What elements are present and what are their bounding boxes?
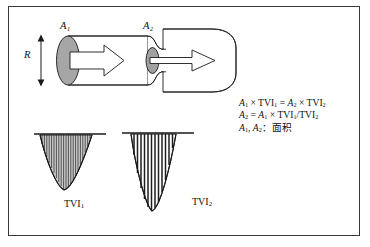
f2-times: ×: [270, 109, 275, 120]
f2-equals: =: [250, 109, 255, 120]
f3-colon: ：: [262, 122, 272, 133]
f1-times-2: ×: [299, 97, 304, 108]
label-tvi1-sub: 1: [81, 202, 84, 209]
f1-tvi2: TVI: [307, 97, 323, 108]
formula-line-2: A2 = A1 × TVI1/TVI2: [239, 109, 326, 121]
label-tvi2: TVI2: [192, 197, 212, 208]
f1-tvi1-sub: 1: [274, 101, 277, 108]
f2-a1-sub: 1: [264, 114, 267, 121]
f1-equals: =: [280, 97, 285, 108]
label-tvi2-text: TVI: [192, 196, 209, 207]
radius-dimension-arrow: [38, 35, 45, 87]
f2-tvi2: TVI: [299, 109, 315, 120]
label-tvi1: TVI1: [64, 199, 84, 210]
label-area-2: A₂: [143, 21, 153, 32]
formula-line-1: A1 × TVI1 = A2 × TVI2: [239, 97, 326, 109]
f3-comma: ,: [248, 122, 250, 133]
f1-tvi1: TVI: [258, 97, 274, 108]
f2-tvi2-sub: 2: [315, 114, 318, 121]
formula-block: A1 × TVI1 = A2 × TVI2 A2 = A1 × TVI1/TVI…: [239, 97, 326, 134]
f2-a2-sub: 2: [245, 114, 248, 121]
figure-root: A₁ A₂ R TVI1 TVI2 A1 × TVI1 = A2 × TVI2 …: [0, 0, 370, 247]
f1-a1-sub: 1: [245, 101, 248, 108]
waveform-tvi2: [122, 133, 194, 211]
label-area-1: A₁: [60, 21, 70, 32]
label-tvi2-sub: 2: [209, 200, 212, 207]
label-tvi1-text: TVI: [64, 198, 81, 209]
f1-a2-sub: 2: [293, 101, 296, 108]
waveform-tvi1: [34, 134, 106, 190]
formula-line-3: A1, A2：面积: [239, 122, 326, 134]
label-radius: R: [24, 50, 30, 61]
f3-meaning: 面积: [272, 122, 292, 133]
f1-tvi2-sub: 2: [323, 101, 326, 108]
f2-tvi1: TVI: [277, 109, 293, 120]
f1-times-1: ×: [250, 97, 255, 108]
